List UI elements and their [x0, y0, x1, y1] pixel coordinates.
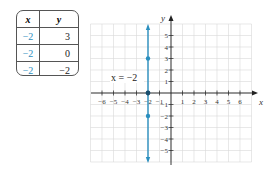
x-axis-arrow-icon	[252, 91, 258, 96]
y-tick-label: 1	[165, 78, 169, 86]
coordinate-graph: −6 −5 −4 −3 −2 −1 1 2 3 4 5 6 5 4 3 2 1 …	[0, 0, 273, 173]
y-tick-label: −3	[161, 124, 169, 132]
y-tick-label: −2	[161, 113, 169, 121]
x-tick-label: −5	[110, 98, 118, 106]
y-tick-label: −1	[161, 101, 169, 109]
point-neg2-3	[146, 56, 150, 60]
x-tick-label: 6	[238, 98, 242, 106]
x-tick-label: −6	[98, 98, 106, 106]
y-tick-labels: 5 4 3 2 1 −1 −2 −3 −4 −5	[161, 32, 169, 155]
x-axis-label: x	[258, 97, 263, 107]
y-axis-label: y	[160, 13, 165, 23]
equation-label: x = −2	[111, 72, 137, 83]
y-tick-label: 2	[165, 67, 169, 75]
y-tick-label: 4	[165, 44, 169, 52]
point-neg2-neg2	[146, 114, 150, 118]
y-tick-label: −4	[161, 136, 169, 144]
y-axis-arrow-icon	[169, 15, 174, 21]
y-tick-label: 5	[165, 32, 169, 40]
y-tick-label: −5	[161, 147, 169, 155]
x-tick-label: 1	[181, 98, 185, 106]
point-neg2-0	[146, 91, 151, 96]
x-tick-label: −3	[133, 98, 141, 106]
x-tick-label: 5	[227, 98, 231, 106]
x-tick-label: 3	[204, 98, 208, 106]
x-tick-label: 4	[215, 98, 219, 106]
x-tick-label: −4	[121, 98, 129, 106]
y-tick-label: 3	[165, 55, 169, 63]
x-tick-label: 2	[192, 98, 196, 106]
line-arrow-up-icon	[146, 24, 150, 30]
